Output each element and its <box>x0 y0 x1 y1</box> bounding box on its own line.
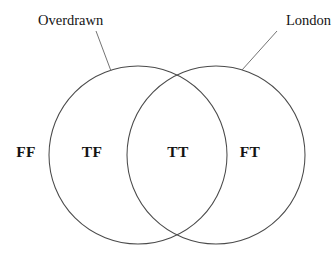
region-label-ft: FT <box>240 143 261 160</box>
set-label-london: London <box>286 12 332 28</box>
set-label-overdrawn: Overdrawn <box>38 12 104 28</box>
region-label-tt: TT <box>167 143 189 160</box>
region-label-tf: TF <box>82 143 102 160</box>
leader-line-overdrawn <box>96 31 111 71</box>
leader-line-london <box>242 31 277 70</box>
circle-overdrawn[interactable] <box>49 66 227 244</box>
venn-diagram-svg: Overdrawn London FF TF TT FT <box>0 0 336 256</box>
region-label-ff: FF <box>16 143 36 160</box>
circle-london[interactable] <box>127 66 305 244</box>
venn-diagram-canvas: Overdrawn London FF TF TT FT <box>0 0 336 256</box>
